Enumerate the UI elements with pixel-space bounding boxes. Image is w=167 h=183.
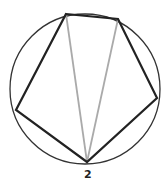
diagonal-line: [87, 19, 118, 162]
diagonal-line: [66, 14, 87, 162]
pentagon-in-circle-diagram: 2: [0, 0, 167, 183]
pentagon: [16, 14, 157, 162]
vertex-label: 2: [84, 168, 92, 181]
